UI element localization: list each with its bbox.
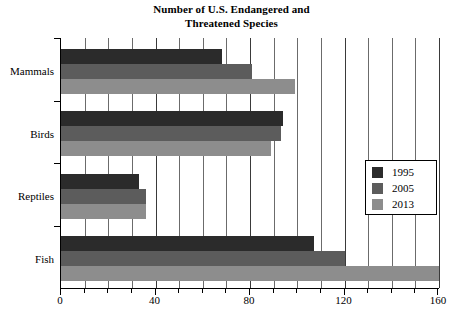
legend-swatch-2013-icon [372, 199, 383, 210]
x-axis-tick [414, 288, 415, 293]
x-axis-tick-labels: 04080120160 [0, 294, 463, 312]
legend-item[interactable]: 1995 [366, 164, 436, 180]
legend-item[interactable]: 2013 [366, 196, 436, 212]
legend-swatch-1995-icon [372, 167, 383, 178]
chart-legend: 1995 2005 2013 [365, 160, 437, 215]
x-axis-tick [391, 288, 392, 293]
x-axis-tick [178, 288, 179, 293]
legend-item[interactable]: 2005 [366, 180, 436, 196]
y-axis-category-label: Mammals [0, 65, 54, 77]
x-axis-tick [131, 288, 132, 293]
legend-label: 1995 [392, 167, 414, 178]
y-axis-category-label: Reptiles [0, 190, 54, 202]
chart-title-line-1: Number of U.S. Endangered and [0, 2, 463, 16]
x-axis-tick [84, 288, 85, 293]
x-axis-tick-label: 120 [324, 294, 364, 306]
bar-chart: Number of U.S. Endangered and Threatened… [0, 0, 463, 314]
legend-label: 2013 [392, 199, 414, 210]
y-axis-category-label: Fish [0, 253, 54, 265]
legend-swatch-2005-icon [372, 183, 383, 194]
x-axis-tick-label: 40 [135, 294, 175, 306]
y-axis-category-label: Birds [0, 128, 54, 140]
chart-title-line-2: Threatened Species [0, 16, 463, 30]
x-axis-tick [296, 288, 297, 293]
x-axis-tick [107, 288, 108, 293]
x-axis-tick [202, 288, 203, 293]
chart-title: Number of U.S. Endangered and Threatened… [0, 2, 463, 30]
legend-label: 2005 [392, 183, 414, 194]
x-axis-tick-label: 0 [40, 294, 80, 306]
x-axis-tick [320, 288, 321, 293]
x-axis-tick [225, 288, 226, 293]
x-axis-tick [273, 288, 274, 293]
x-axis-tick-label: 80 [229, 294, 269, 306]
x-axis-tick-label: 160 [418, 294, 458, 306]
x-axis-tick [367, 288, 368, 293]
